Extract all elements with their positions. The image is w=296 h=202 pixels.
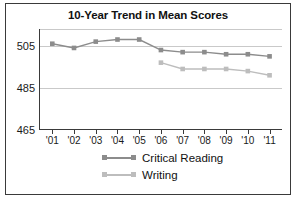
data-point-marker [180,50,185,55]
data-point-marker [267,54,272,59]
chart-figure: 10-Year Trend in Mean Scores 465485505 '… [5,3,291,195]
data-point-marker [246,52,251,57]
legend-marker-icon [102,170,136,180]
y-axis-tick-label: 465 [17,124,35,136]
legend-item[interactable]: Writing [102,169,178,181]
x-axis-tick-label: '06 [154,135,167,146]
x-axis-tick-label: '03 [89,135,102,146]
y-axis-tick-label: 505 [17,40,35,52]
x-axis-tick [52,130,53,134]
x-axis-tick [161,130,162,134]
data-point-marker [72,46,77,51]
legend-label: Critical Reading [142,152,223,164]
series-plot [39,29,282,130]
x-axis-tick [96,130,97,134]
x-axis-tick-label: '10 [241,135,254,146]
series-line [161,63,270,76]
data-point-marker [202,50,207,55]
x-axis-tick [183,130,184,134]
legend-label: Writing [142,169,178,181]
data-point-marker [224,52,229,57]
data-point-marker [137,37,142,42]
data-point-marker [159,60,164,65]
x-axis-tick-label: '05 [133,135,146,146]
x-axis-tick-label: '11 [263,135,275,146]
x-axis-tick [204,130,205,134]
data-point-marker [180,67,185,72]
x-axis-tick-label: '02 [67,135,80,146]
x-axis-tick-label: '04 [111,135,124,146]
data-point-marker [246,69,251,74]
plot-area: 465485505 '01'02'03'04'05'06'07'08'09'10… [39,29,282,130]
x-axis-tick [139,130,140,134]
data-point-marker [267,73,272,78]
y-axis-tick-label: 485 [17,82,35,94]
x-axis-tick-label: '07 [176,135,189,146]
x-axis-tick [117,130,118,134]
x-axis-tick-label: '08 [198,135,211,146]
legend-item[interactable]: Critical Reading [102,152,223,164]
data-point-marker [202,67,207,72]
x-axis-tick [226,130,227,134]
legend-marker-icon [102,153,136,163]
data-point-marker [50,41,55,46]
data-point-marker [224,67,229,72]
data-point-marker [115,37,120,42]
x-axis-tick [74,130,75,134]
x-axis-tick-label: '09 [220,135,233,146]
x-axis-tick [248,130,249,134]
x-axis-tick [270,130,271,134]
x-axis-tick-label: '01 [46,135,59,146]
chart-legend: Critical ReadingWriting [6,152,290,181]
data-point-marker [93,39,98,44]
chart-title: 10-Year Trend in Mean Scores [6,9,290,21]
data-point-marker [159,48,164,53]
